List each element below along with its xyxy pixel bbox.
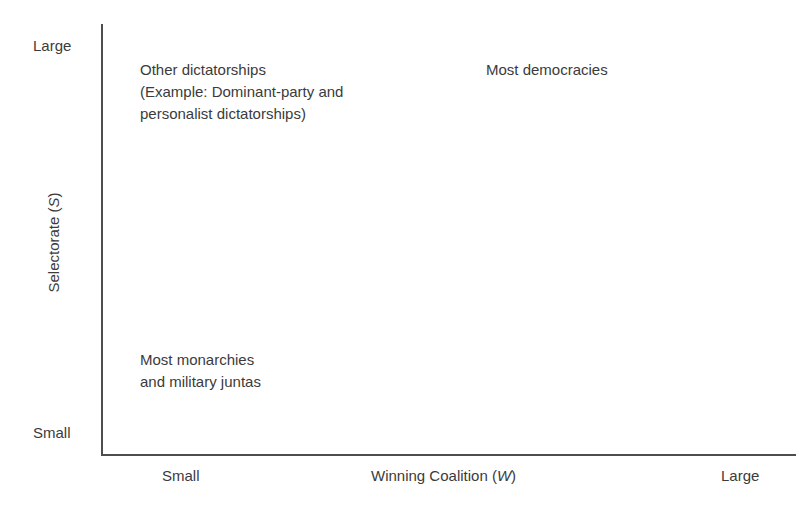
x-axis-title-text: Winning Coalition ( [371,467,497,484]
selectorate-winning-coalition-diagram: Large Small Small Large Selectorate (S) … [0,0,806,514]
x-axis-line [101,454,796,456]
y-axis-title: Selectorate (S) [44,163,63,323]
annotation-other-dictatorships: Other dictatorships (Example: Dominant-p… [140,59,440,125]
annotation-most-democracies: Most democracies [486,59,706,81]
x-axis-left-tick-label: Small [162,466,200,485]
x-axis-title-tail: ) [511,467,516,484]
annotation-most-monarchies: Most monarchies and military juntas [140,349,400,393]
x-axis-right-tick-label: Large [721,466,759,485]
y-axis-top-tick-label: Large [33,36,71,55]
x-axis-title-variable: W [497,467,511,484]
y-axis-title-tail: ) [45,192,62,197]
y-axis-line [101,24,103,456]
x-axis-title: Winning Coalition (W) [371,466,516,485]
y-axis-bottom-tick-label: Small [33,423,71,442]
y-axis-title-variable: S [45,197,62,207]
y-axis-title-text: Selectorate ( [45,207,62,292]
